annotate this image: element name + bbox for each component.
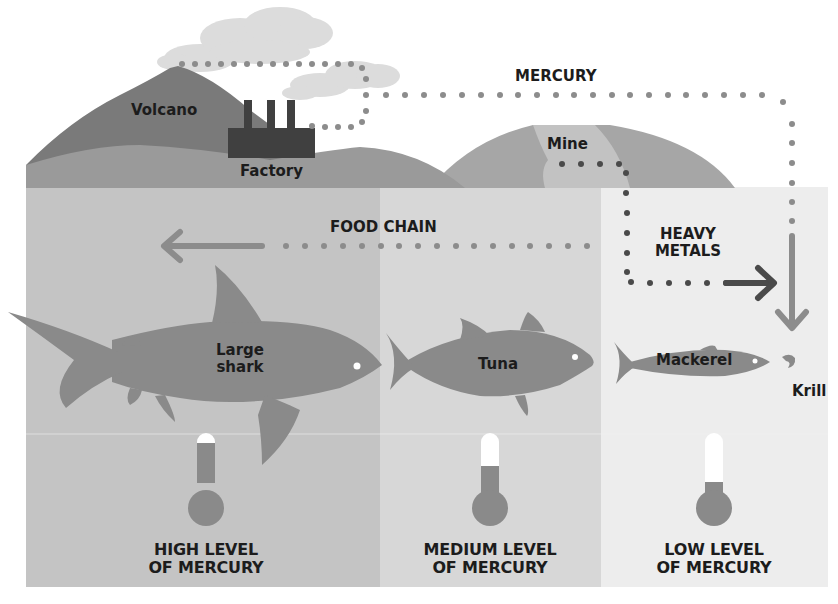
high-level-line1: HIGH LEVEL — [126, 541, 286, 559]
medium-level-line2: OF MERCURY — [405, 559, 575, 577]
tuna-label: Tuna — [478, 356, 518, 373]
heavy-metals-line2: METALS — [648, 243, 728, 260]
mackerel-eye — [753, 359, 758, 364]
low-level-line2: OF MERCURY — [634, 559, 794, 577]
krill-label: Krill — [792, 383, 826, 400]
tuna-eye — [572, 354, 578, 360]
high-level-label: HIGH LEVEL OF MERCURY — [126, 541, 286, 576]
mercury-label: MERCURY — [515, 68, 597, 85]
factory-label: Factory — [240, 163, 303, 180]
low-level-label: LOW LEVEL OF MERCURY — [634, 541, 794, 576]
medium-level-line1: MEDIUM LEVEL — [405, 541, 575, 559]
shark-label-line1: Large — [205, 342, 275, 359]
high-level-line2: OF MERCURY — [126, 559, 286, 577]
food-chain-label: FOOD CHAIN — [330, 219, 437, 236]
mine-label: Mine — [547, 136, 588, 153]
mackerel-label: Mackerel — [656, 352, 732, 369]
volcano-label: Volcano — [131, 102, 197, 119]
heavy-metals-line1: HEAVY — [648, 226, 728, 243]
mercury-food-chain-diagram: Volcano Factory Mine MERCURY FOOD CHAIN … — [0, 0, 838, 604]
shark-label: Large shark — [205, 342, 275, 375]
shark-eye — [354, 363, 361, 370]
low-level-line1: LOW LEVEL — [634, 541, 794, 559]
shark-label-line2: shark — [205, 359, 275, 376]
heavy-metals-label: HEAVY METALS — [648, 226, 728, 259]
medium-level-label: MEDIUM LEVEL OF MERCURY — [405, 541, 575, 576]
scene-graphics — [0, 0, 838, 604]
